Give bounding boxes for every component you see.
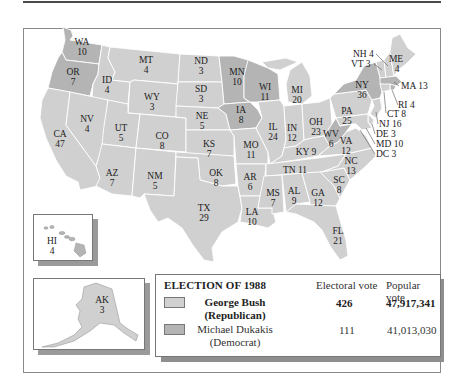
svg-text:20: 20 (292, 95, 302, 105)
label-fl: FL (332, 226, 343, 236)
svg-text:24: 24 (268, 132, 278, 142)
electoral-vote-header: Electoral vote (316, 279, 377, 291)
label-tn: TN 11 (283, 165, 307, 175)
label-ok: OK (209, 168, 223, 178)
label-wy: WY (144, 92, 160, 102)
label-ky: KY 9 (296, 147, 317, 157)
svg-text:25: 25 (342, 116, 352, 126)
label-in: IN (287, 123, 297, 133)
label-nv: NV (80, 114, 94, 124)
svg-text:11: 11 (260, 92, 269, 102)
label-ia: IA (236, 105, 246, 115)
label-nh: NH 4 (353, 49, 374, 59)
svg-text:3: 3 (100, 305, 105, 315)
svg-text:5: 5 (153, 181, 158, 191)
label-va: VA (340, 136, 353, 146)
label-ga: GA (311, 188, 325, 198)
label-sd: SD (195, 84, 207, 94)
svg-text:8: 8 (160, 141, 165, 151)
label-wa: WA (75, 37, 90, 47)
candidate-bush: George Bush (Republican) (190, 296, 280, 322)
svg-text:4: 4 (50, 246, 55, 256)
svg-text:13: 13 (346, 166, 356, 176)
svg-text:5: 5 (200, 121, 205, 131)
svg-text:9: 9 (292, 196, 297, 206)
svg-text:23: 23 (311, 127, 321, 137)
svg-text:8: 8 (337, 185, 342, 195)
label-nj: NJ 16 (379, 119, 402, 129)
svg-text:5: 5 (119, 133, 124, 143)
label-or: OR (66, 67, 80, 77)
svg-text:11: 11 (246, 150, 255, 160)
label-nc: NC (344, 156, 357, 166)
label-mn: MN (229, 67, 244, 77)
legend-title: ELECTION OF 1988 (164, 279, 266, 291)
label-id: ID (102, 75, 112, 85)
label-ut: UT (115, 123, 128, 133)
label-sc: SC (333, 175, 345, 185)
svg-text:7: 7 (207, 149, 212, 159)
hawaii-inset: HI 4 (33, 214, 93, 261)
label-de: DE 3 (376, 129, 396, 139)
label-il: IL (269, 122, 278, 132)
label-ne: NE (196, 111, 209, 121)
label-wi: WI (259, 82, 271, 92)
bush-popular-vote: 47,917,341 (386, 297, 436, 309)
republican-swatch (164, 297, 185, 308)
svg-text:7: 7 (110, 178, 115, 188)
label-al: AL (288, 186, 301, 196)
label-dc: DC 3 (376, 149, 397, 159)
alaska-inset: AK 3 (33, 278, 145, 350)
svg-text:47: 47 (55, 139, 65, 149)
label-co: CO (155, 131, 168, 141)
label-la: LA (246, 207, 259, 217)
svg-text:6: 6 (329, 139, 334, 149)
dukakis-electoral-vote: 111 (339, 324, 355, 336)
svg-text:4: 4 (144, 65, 149, 75)
svg-text:29: 29 (199, 213, 209, 223)
label-az: AZ (106, 168, 119, 178)
label-nd: ND (194, 56, 208, 66)
svg-text:3: 3 (199, 94, 204, 104)
label-ma: MA 13 (401, 81, 428, 91)
label-mo: MO (243, 140, 258, 150)
bush-electoral-vote: 426 (336, 297, 353, 309)
svg-text:3: 3 (150, 102, 155, 112)
svg-text:6: 6 (248, 182, 253, 192)
candidate-dukakis: Michael Dukakis (Democrat) (190, 323, 280, 349)
label-md: MD 10 (376, 139, 403, 149)
label-me: ME (389, 54, 403, 64)
label-hi: HI (47, 236, 57, 246)
state-ct (380, 84, 390, 92)
label-vt: VT 3 (351, 59, 371, 69)
label-ks: KS (203, 139, 215, 149)
svg-text:4: 4 (105, 85, 110, 95)
svg-text:7: 7 (271, 198, 276, 208)
label-ct: CT 8 (387, 109, 406, 119)
label-ny: NY (355, 80, 369, 90)
svg-text:10: 10 (247, 217, 257, 227)
svg-text:8: 8 (214, 178, 219, 188)
svg-text:3: 3 (199, 66, 204, 76)
label-tx: TX (198, 203, 211, 213)
label-pa: PA (341, 106, 352, 116)
label-mt: MT (139, 55, 153, 65)
label-wv: WV (323, 129, 339, 139)
label-mi: MI (291, 85, 303, 95)
label-ak: AK (95, 295, 109, 305)
dukakis-popular-vote: 41,013,030 (387, 324, 437, 336)
democrat-swatch (164, 324, 185, 335)
svg-text:8: 8 (239, 115, 244, 125)
svg-text:12: 12 (341, 146, 351, 156)
svg-text:7: 7 (71, 77, 76, 87)
legend-box: ELECTION OF 1988 Electoral vote Popular … (155, 274, 441, 357)
svg-text:36: 36 (357, 90, 367, 100)
svg-text:12: 12 (313, 198, 323, 208)
svg-text:4: 4 (395, 64, 400, 74)
label-ca: CA (53, 129, 66, 139)
label-nm: NM (147, 171, 163, 181)
svg-text:10: 10 (232, 77, 242, 87)
label-ms: MS (266, 188, 280, 198)
svg-text:10: 10 (77, 47, 87, 57)
svg-text:21: 21 (333, 236, 343, 246)
